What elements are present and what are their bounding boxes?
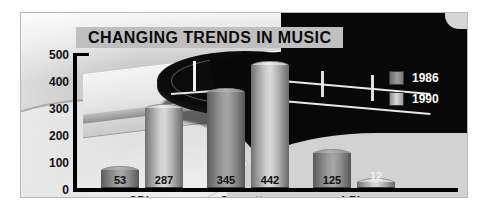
- bar-body: [357, 182, 395, 188]
- legend-item-1990[interactable]: 1990: [389, 92, 468, 106]
- chart-figure: 1986 1990 500 400 300 200 100 0 53: [0, 0, 486, 208]
- background-corner-highlight: [445, 13, 467, 29]
- category-label-cassettes: Cassettes: [205, 195, 291, 198]
- legend-label-1986: 1986: [412, 72, 439, 84]
- bar-value-label: 125: [313, 175, 351, 186]
- page-title: CHANGING TRENDS IN MUSIC: [88, 29, 331, 47]
- y-tick-100: 100: [35, 157, 69, 169]
- bar-lps-1990[interactable]: 12: [357, 183, 395, 188]
- bar-value-label: 287: [145, 175, 183, 186]
- y-tick-0: 0: [35, 184, 69, 196]
- bar-cds-1990[interactable]: 287: [145, 109, 183, 188]
- y-tick-500: 500: [35, 49, 69, 61]
- bar-cassettes-1986[interactable]: 345: [207, 93, 245, 188]
- y-tick-300: 300: [35, 103, 69, 115]
- bar-lps-1986[interactable]: 125: [313, 154, 351, 188]
- chart-plate: 1986 1990 500 400 300 200 100 0 53: [20, 12, 468, 198]
- bar-value-label: 345: [207, 175, 245, 186]
- legend-item-1986[interactable]: 1986: [389, 71, 468, 85]
- category-label-cds: CD's: [99, 195, 185, 198]
- bar-cds-1986[interactable]: 53: [101, 171, 139, 188]
- legend: 1986 1990: [389, 71, 468, 113]
- rail-post-icon: [193, 61, 196, 91]
- x-axis-line: [73, 188, 458, 192]
- chart-title-bar: CHANGING TRENDS IN MUSIC: [76, 27, 343, 48]
- y-tick-200: 200: [35, 130, 69, 142]
- legend-swatch-icon-1990: [389, 92, 404, 106]
- bar-value-label: 12: [357, 171, 395, 182]
- bar-body: [251, 65, 289, 188]
- bar-value-label: 53: [101, 175, 139, 186]
- y-axis-line: [73, 53, 77, 192]
- y-axis-top-cap: [73, 53, 89, 56]
- bar-cassettes-1990[interactable]: 442: [251, 66, 289, 188]
- legend-swatch-icon-1986: [389, 71, 404, 85]
- y-axis-labels: 500 400 300 200 100 0: [29, 13, 69, 197]
- bar-value-label: 442: [251, 175, 289, 186]
- y-tick-400: 400: [35, 76, 69, 88]
- legend-label-1990: 1990: [412, 93, 439, 105]
- category-label-lps: LP's: [311, 195, 397, 198]
